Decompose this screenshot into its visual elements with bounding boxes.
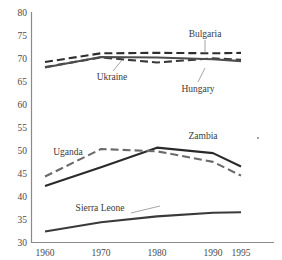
- line-chart: 80 75 70 65 60 55 50 45 40 35 30 1960 19…: [0, 0, 282, 260]
- ink-speck: [257, 137, 259, 139]
- data-series-layer: [45, 53, 241, 232]
- y-tick-30: 30: [18, 238, 28, 248]
- x-tick-1980: 1980: [148, 248, 167, 258]
- x-tick-1960: 1960: [36, 248, 55, 258]
- x-axis-tick-labels: 1960 1970 1980 1990 1995: [36, 248, 251, 258]
- x-tick-1970: 1970: [92, 248, 111, 258]
- y-tick-75: 75: [18, 31, 28, 41]
- annotation-sierra-leone: Sierra Leone: [76, 203, 125, 213]
- annotation-ukraine: Ukraine: [97, 72, 128, 82]
- annotation-leader-lines: [113, 40, 259, 213]
- y-tick-60: 60: [18, 100, 28, 110]
- series-line-sierra-leone: [45, 212, 241, 231]
- y-tick-35: 35: [18, 215, 28, 225]
- x-tick-1995: 1995: [232, 248, 251, 258]
- y-tick-40: 40: [18, 192, 28, 202]
- leader-ukraine: [113, 60, 122, 71]
- y-tick-65: 65: [18, 77, 28, 87]
- x-tick-1990: 1990: [204, 248, 223, 258]
- y-tick-70: 70: [18, 54, 28, 64]
- y-tick-80: 80: [18, 8, 28, 18]
- y-axis-tick-labels: 80 75 70 65 60 55 50 45 40 35 30: [18, 8, 28, 248]
- annotation-bulgaria: Bulgaria: [189, 29, 222, 39]
- leader-sierra-leone: [131, 206, 160, 213]
- leader-hungary: [198, 68, 205, 82]
- y-tick-55: 55: [18, 123, 28, 133]
- annotation-uganda: Uganda: [53, 147, 83, 157]
- chart-canvas: 80 75 70 65 60 55 50 45 40 35 30 1960 19…: [0, 0, 282, 260]
- y-tick-45: 45: [18, 169, 28, 179]
- y-tick-50: 50: [18, 146, 28, 156]
- annotation-hungary: Hungary: [181, 84, 214, 94]
- annotation-zambia: Zambia: [188, 131, 218, 141]
